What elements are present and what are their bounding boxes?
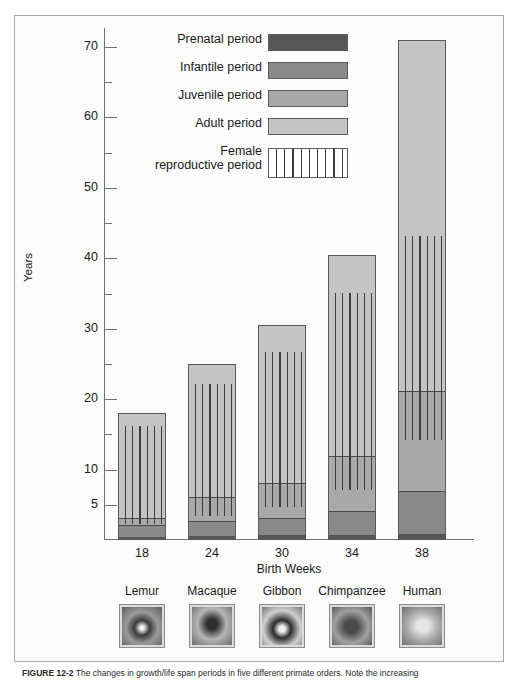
legend-swatch-adult — [268, 118, 348, 135]
bar-segment-adult — [329, 255, 375, 456]
y-tick-label-text: 50 — [60, 181, 98, 194]
y-tick-label-text: 60 — [60, 110, 98, 123]
y-minor-tick-45 — [104, 223, 112, 224]
bar-segment-infantile — [329, 511, 375, 534]
bar-segment-adult — [189, 364, 235, 497]
gibbon-photo — [259, 604, 305, 648]
bar-segment-prenatal — [329, 535, 375, 539]
bar-segment-prenatal — [119, 537, 165, 539]
legend-swatch-prenatal — [268, 34, 348, 51]
bar-segment-juvenile — [399, 391, 445, 491]
figure-caption: FIGURE 12-2 The changes in growth/life s… — [22, 668, 496, 682]
gibbon-photo-image — [262, 607, 302, 645]
bar-chimpanzee[interactable] — [328, 255, 376, 540]
y-minor-tick-65 — [104, 82, 112, 83]
chimpanzee-photo-image — [332, 607, 372, 645]
legend-swatch-infantile — [268, 62, 348, 79]
legend-label-female-reproductive: Femalereproductive period — [102, 144, 262, 173]
x-tick-label-18: 18 — [107, 546, 177, 560]
y-minor-tick-25 — [104, 364, 112, 365]
legend-item-infantile: Infantile period — [118, 60, 358, 85]
y-tick-20 — [104, 399, 117, 400]
y-tick-label-text: 20 — [60, 392, 98, 405]
bar-segment-adult — [119, 413, 165, 517]
bar-segment-infantile — [259, 518, 305, 535]
bar-segment-adult — [259, 325, 305, 483]
bar-segment-prenatal — [259, 535, 305, 539]
y-minor-tick-35 — [104, 294, 112, 295]
bar-segment-juvenile — [329, 456, 375, 512]
y-tick-40 — [104, 258, 117, 259]
species-label-human: Human — [379, 584, 465, 598]
bar-segment-infantile — [189, 521, 235, 536]
legend-item-adult: Adult period — [118, 116, 358, 141]
bar-segment-infantile — [399, 491, 445, 534]
macaque-photo-image — [192, 607, 232, 645]
legend-swatch-juvenile — [268, 90, 348, 107]
bar-segment-adult — [399, 40, 445, 391]
legend-item-prenatal: Prenatal period — [118, 32, 358, 57]
bar-lemur[interactable] — [118, 413, 166, 540]
bar-gibbon[interactable] — [258, 325, 306, 540]
y-tick-label-text: 5 — [60, 498, 98, 511]
chimpanzee-photo — [329, 604, 375, 648]
lemur-photo — [119, 604, 165, 648]
y-tick-5 — [104, 505, 117, 506]
figure-number: FIGURE 12-2 — [22, 668, 74, 678]
legend-label-infantile: Infantile period — [102, 60, 262, 74]
bar-segment-prenatal — [189, 536, 235, 539]
y-tick-70 — [104, 47, 117, 48]
figure-caption-text: The changes in growth/life span periods … — [76, 668, 419, 678]
y-tick-50 — [104, 188, 117, 189]
bar-segment-prenatal — [399, 534, 445, 539]
legend-swatch-female-reproductive — [268, 148, 348, 178]
x-tick-label-38: 38 — [387, 546, 457, 560]
figure-container: Years 510203040506070 1824303438 Birth W… — [0, 0, 518, 684]
x-tick-label-30: 30 — [247, 546, 317, 560]
y-axis-title: Years — [22, 253, 34, 282]
legend-label-adult: Adult period — [102, 116, 262, 130]
bar-segment-juvenile — [189, 497, 235, 521]
bar-human[interactable] — [398, 40, 446, 540]
y-tick-label-text: 70 — [60, 40, 98, 53]
legend-item-juvenile: Juvenile period — [118, 88, 358, 113]
x-axis-title: Birth Weeks — [104, 562, 474, 576]
y-tick-30 — [104, 329, 117, 330]
bar-macaque[interactable] — [188, 364, 236, 540]
legend-label-prenatal: Prenatal period — [102, 32, 262, 46]
lemur-photo-image — [122, 607, 162, 645]
bar-segment-infantile — [119, 525, 165, 537]
x-tick-label-34: 34 — [317, 546, 387, 560]
y-tick-label-text: 40 — [60, 251, 98, 264]
bar-segment-juvenile — [259, 483, 305, 518]
human-photo-image — [402, 607, 442, 645]
legend-item-female-reproductive: Femalereproductive period — [118, 144, 358, 182]
bar-segment-juvenile — [119, 518, 165, 525]
macaque-photo — [189, 604, 235, 648]
human-photo — [399, 604, 445, 648]
y-tick-10 — [104, 470, 117, 471]
y-tick-label-text: 30 — [60, 322, 98, 335]
y-tick-label-text: 10 — [60, 463, 98, 476]
chart-legend: Prenatal period Infantile period Juvenil… — [118, 32, 358, 185]
y-minor-tick-15 — [104, 434, 112, 435]
legend-label-juvenile: Juvenile period — [102, 88, 262, 102]
x-tick-label-24: 24 — [177, 546, 247, 560]
